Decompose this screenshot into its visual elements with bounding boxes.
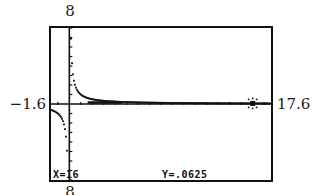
graph-plot [0,0,316,195]
trace-y-readout: Y=.0625 [162,169,208,180]
trace-x-readout: X=16 [53,169,79,180]
